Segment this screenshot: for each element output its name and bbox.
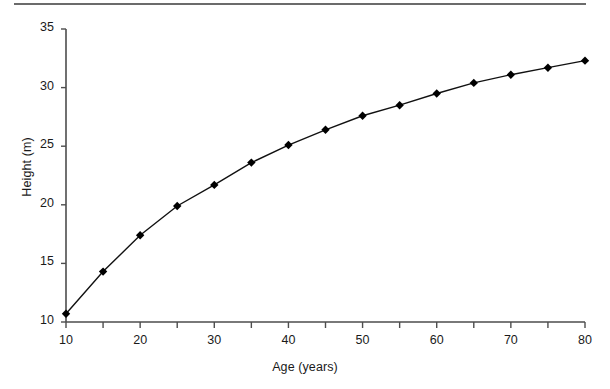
y-axis-tick-label: 35 xyxy=(14,20,54,34)
chart-figure: 101520253035 1020304050607080 Height (m)… xyxy=(0,0,610,389)
series-line xyxy=(66,61,585,314)
data-point-marker xyxy=(581,56,589,64)
x-axis-tick-label: 60 xyxy=(417,333,457,347)
x-axis-tick-label: 50 xyxy=(343,333,383,347)
data-point-marker xyxy=(247,158,255,166)
data-point-marker xyxy=(321,126,329,134)
line-chart-plot xyxy=(0,0,610,389)
x-axis-tick-label: 30 xyxy=(194,333,234,347)
data-point-marker xyxy=(433,89,441,97)
axes-group xyxy=(61,29,585,328)
y-axis-tick-label: 15 xyxy=(14,254,54,268)
data-point-marker xyxy=(544,63,552,71)
x-axis-tick-label: 70 xyxy=(491,333,531,347)
x-axis-tick-label: 10 xyxy=(46,333,86,347)
data-series-group xyxy=(62,56,589,318)
x-axis-tick-label: 40 xyxy=(268,333,308,347)
x-axis-title: Age (years) xyxy=(0,360,610,374)
data-point-marker xyxy=(358,112,366,120)
data-point-marker xyxy=(395,101,403,109)
data-point-marker xyxy=(470,79,478,87)
data-point-marker xyxy=(284,141,292,149)
data-point-marker xyxy=(210,181,218,189)
x-axis-tick-label: 80 xyxy=(565,333,605,347)
y-axis-tick-label: 30 xyxy=(14,79,54,93)
data-point-marker xyxy=(507,71,515,79)
x-axis-tick-label: 20 xyxy=(120,333,160,347)
y-axis-tick-label: 10 xyxy=(14,313,54,327)
y-axis-title: Height (m) xyxy=(20,122,34,212)
